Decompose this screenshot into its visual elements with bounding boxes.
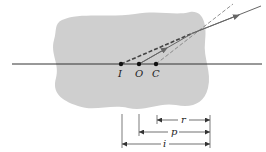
dim-label-i: i	[163, 138, 166, 149]
refraction-diagram: I O C r p i	[0, 0, 266, 152]
dim-label-r: r	[181, 114, 187, 125]
refracting-medium	[53, 12, 209, 109]
point-center-C	[154, 62, 158, 66]
point-image-I	[119, 62, 123, 66]
label-O: O	[135, 68, 143, 79]
dim-label-p: p	[171, 126, 178, 137]
label-C: C	[152, 68, 160, 79]
point-object-O	[137, 62, 141, 66]
